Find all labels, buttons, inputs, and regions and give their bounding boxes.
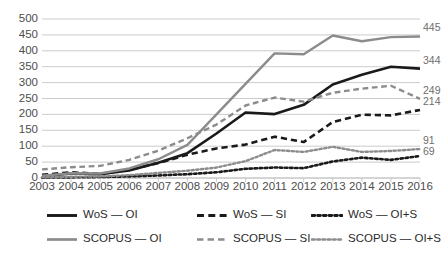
legend-item-label: WoS — SI <box>233 209 286 221</box>
legend-item-label: WoS — OI+S <box>348 209 417 221</box>
plot-area: 050100150200250300350400450500 445344249… <box>0 0 446 200</box>
legend-line-swatch-icon <box>46 210 78 221</box>
legend-item-2[interactable]: WoS — OI+S <box>311 203 446 227</box>
x-axis-tick-label: 2007 <box>146 181 172 193</box>
legend-item-3[interactable]: SCOPUS — OI <box>46 227 196 251</box>
line-chart: 050100150200250300350400450500 445344249… <box>0 0 446 257</box>
series-end-value-label: 445 <box>423 22 441 33</box>
x-axis-tick-label: 2010 <box>233 181 259 193</box>
series-end-value-labels: 4453442492149169 <box>0 0 446 200</box>
x-axis-tick-label: 2012 <box>291 181 317 193</box>
x-axis-tick-label: 2006 <box>116 181 142 193</box>
legend-item-5[interactable]: SCOPUS — OI+S <box>311 227 446 251</box>
x-axis-tick-label: 2015 <box>378 181 404 193</box>
legend-item-0[interactable]: WoS — OI <box>46 203 196 227</box>
legend-line-swatch-icon <box>311 234 343 245</box>
series-end-value-label: 91 <box>423 135 435 146</box>
x-axis-tick-label: 2009 <box>204 181 230 193</box>
legend-line-swatch-icon <box>46 234 78 245</box>
x-axis-tick-label: 2003 <box>29 181 55 193</box>
legend-line-swatch-icon <box>196 234 228 245</box>
legend-item-1[interactable]: WoS — SI <box>196 203 311 227</box>
series-end-value-label: 69 <box>423 146 435 157</box>
x-axis-tick-label: 2016 <box>407 181 433 193</box>
x-axis-tick-label: 2013 <box>320 181 346 193</box>
legend-item-4[interactable]: SCOPUS — SI <box>196 227 311 251</box>
legend-item-label: SCOPUS — OI <box>83 233 162 245</box>
x-axis-tick-label: 2014 <box>349 181 375 193</box>
x-axis-tick-label: 2011 <box>262 181 287 193</box>
legend-item-label: WoS — OI <box>83 209 138 221</box>
legend-item-label: SCOPUS — SI <box>233 233 310 245</box>
series-end-value-label: 344 <box>423 54 441 65</box>
series-end-value-label: 249 <box>423 85 441 96</box>
series-end-value-label: 214 <box>423 96 441 107</box>
chart-legend: WoS — OIWoS — SIWoS — OI+SSCOPUS — OISCO… <box>0 203 446 257</box>
legend-item-label: SCOPUS — OI+S <box>348 233 441 245</box>
x-axis-tick-labels: 2003200420052006200720082009201020112012… <box>0 181 446 199</box>
x-axis-tick-label: 2008 <box>175 181 201 193</box>
legend-line-swatch-icon <box>196 210 228 221</box>
legend-line-swatch-icon <box>311 210 343 221</box>
x-axis-tick-label: 2005 <box>87 181 113 193</box>
x-axis-tick-label: 2004 <box>58 181 84 193</box>
